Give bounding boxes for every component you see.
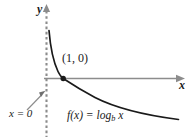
x-intercept-point bbox=[61, 76, 66, 81]
y-axis-arrowhead bbox=[43, 4, 50, 12]
function-equation-prefix: f(x) = log bbox=[67, 109, 111, 121]
asymptote-equation-label: x = 0 bbox=[9, 108, 32, 119]
x-axis-label: x bbox=[179, 79, 185, 91]
function-equation-argument: x bbox=[115, 109, 123, 121]
logarithm-graph-figure: y x (1, 0) x = 0 f(x) = logb x bbox=[0, 0, 192, 139]
log-curve-path bbox=[49, 31, 179, 120]
function-equation-label: f(x) = logb x bbox=[67, 110, 123, 124]
vertical-asymptote bbox=[43, 4, 50, 137]
point-coordinate-label: (1, 0) bbox=[62, 52, 88, 64]
point-marker-dot bbox=[61, 76, 66, 81]
logarithm-curve bbox=[49, 31, 179, 120]
y-axis-label: y bbox=[37, 3, 42, 15]
